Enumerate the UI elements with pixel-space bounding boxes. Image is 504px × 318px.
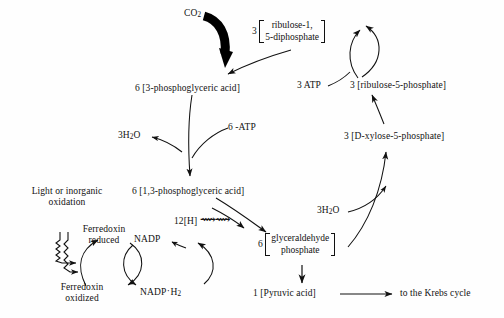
arrow-3h2o-in-right xyxy=(348,186,386,212)
ribulose-diphosphate-coefficient: 3 xyxy=(252,26,257,38)
glyceraldehyde-phosphate-line2: phosphate xyxy=(271,245,329,257)
arrow-nadp-recycle xyxy=(172,242,186,248)
arrow-ferredoxin-ox-to-red xyxy=(81,240,98,286)
node-nadp-h2: NADP·H2 xyxy=(140,286,181,300)
arrow-6atp-in xyxy=(192,128,228,158)
arrow-ferredoxin-red-to-ox xyxy=(128,243,142,285)
node-water-left: 3H2O xyxy=(118,130,140,143)
pathway-arrows-layer xyxy=(0,0,504,318)
co2-subscript: 2 xyxy=(197,11,201,19)
arrow-r5p-to-rudp xyxy=(362,26,379,77)
node-glyceraldehyde-phosphate: 6 glyceraldehyde phosphate xyxy=(258,233,335,256)
node-water-right: 3H2O xyxy=(317,205,339,218)
node-nadp: NADP xyxy=(134,234,160,245)
ribulose-diphosphate-line2: 5-diphosphate xyxy=(265,32,319,44)
electron-transfer-zigzag-icon: ⟿⟿ xyxy=(200,213,230,226)
arrow-gap-to-xylose xyxy=(348,152,386,247)
arrow-nadph2-to-nadp xyxy=(198,243,213,284)
node-ferredoxin-reduced: Ferredoxin reduced xyxy=(66,224,142,246)
arrow-3h2o-out-left xyxy=(152,137,182,152)
node-3-atp: 3 ATP xyxy=(297,80,321,91)
arrow-nadp-to-nadph2 xyxy=(124,245,136,285)
node-ribulose-5-phosphate: 3 [ribulose-5-phosphate] xyxy=(350,80,446,91)
node-ribulose-1-5-diphosphate: 3 ribulose-1, 5-diphosphate xyxy=(252,20,325,43)
glyceraldehyde-phosphate-coefficient: 6 xyxy=(258,239,263,251)
arrow-3atp-in xyxy=(328,72,350,86)
arrow-xylose-to-r5p xyxy=(372,95,384,124)
node-3-phosphoglyceric-acid: 6 [3-phosphoglyceric acid] xyxy=(135,83,240,94)
node-6-atp: 6 -ATP xyxy=(228,122,256,133)
node-co2: CO2 xyxy=(184,8,201,21)
node-krebs-cycle: to the Krebs cycle xyxy=(400,288,471,299)
arrow-pga-to-bpga xyxy=(189,95,192,176)
co2-entry-arrow xyxy=(204,16,233,68)
calvin-cycle-diagram: CO2 3 ribulose-1, 5-diphosphate 3 ATP 3 … xyxy=(0,0,504,318)
arrow-rudp-to-pga xyxy=(228,50,291,74)
arrow-r5p-to-rudp-inner xyxy=(350,30,360,78)
node-light-or-inorganic-oxidation: Light or inorganic oxidation xyxy=(8,186,126,208)
glyceraldehyde-phosphate-line1: glyceraldehyde xyxy=(271,233,329,245)
node-ferredoxin-oxidized: Ferredoxin oxidized xyxy=(44,282,120,304)
ribulose-diphosphate-line1: ribulose-1, xyxy=(265,20,319,32)
node-d-xylose-5-phosphate: 3 [D-xylose-5-phosphate] xyxy=(344,131,444,142)
node-1-3-phosphoglyceric-acid: 6 [1,3-phosphoglyceric acid] xyxy=(132,186,244,197)
node-pyruvic-acid: 1 [Pyruvic acid] xyxy=(253,288,316,299)
node-12-hydrogen: 12[H] xyxy=(174,216,197,227)
